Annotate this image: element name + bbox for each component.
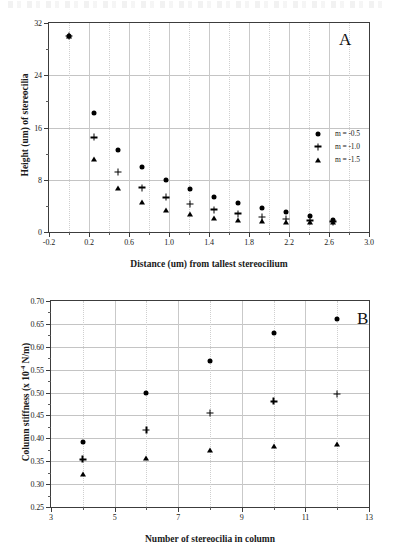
plot-area-b: 0.250.300.350.400.450.500.550.600.650.70… [50, 300, 370, 508]
gridline-vertical [242, 301, 243, 507]
x-axis-tick [369, 507, 370, 512]
data-point-circle [260, 206, 265, 211]
data-point-circle [116, 147, 121, 152]
gridline-vertical-minor [69, 23, 70, 232]
y-axis-tick-label: 0.45 [30, 411, 44, 420]
y-axis-tick [46, 301, 51, 302]
gridline-vertical [169, 23, 170, 232]
y-axis-title-b-suffix: N/m) [21, 343, 31, 366]
y-axis-tick-label: 0.70 [30, 297, 44, 306]
y-axis-tick [46, 393, 51, 394]
data-point-plus [259, 213, 266, 220]
y-axis-tick-label: 16 [34, 123, 42, 132]
y-axis-tick [46, 484, 51, 485]
y-axis-tick-label: 24 [34, 71, 42, 80]
legend-label: m = -1.5 [335, 155, 360, 164]
y-axis-minor-tick [48, 312, 51, 313]
gridline-vertical-minor [337, 301, 338, 507]
gridline-vertical [129, 23, 130, 232]
y-axis-tick [46, 415, 51, 416]
y-axis-tick-label: 32 [34, 19, 42, 28]
y-axis-tick [46, 461, 51, 462]
x-axis-tick [115, 507, 116, 512]
x-axis-minor-tick [309, 232, 310, 235]
x-axis-minor-tick [149, 232, 150, 235]
y-axis-minor-tick [48, 404, 51, 405]
data-point-circle [236, 201, 241, 206]
data-point-triangle [330, 220, 336, 225]
gridline-vertical [115, 301, 116, 507]
y-axis-tick-label: 0.35 [30, 457, 44, 466]
data-point-triangle [259, 218, 265, 223]
y-axis-tick-label: 0.25 [30, 503, 44, 512]
x-axis-tick [51, 507, 52, 512]
x-axis-minor-tick [69, 232, 70, 235]
y-axis-minor-tick [48, 450, 51, 451]
data-point-triangle [91, 156, 97, 161]
x-axis-tick-label: 7 [176, 513, 180, 522]
data-point-plus [307, 217, 314, 224]
data-point-triangle [187, 212, 193, 217]
x-axis-tick-label: 0.6 [124, 238, 134, 247]
legend-label: m = -1.0 [335, 142, 360, 151]
legend-marker-triangle [311, 153, 325, 166]
panel-letter-a: A [339, 30, 351, 50]
gridline-vertical-minor [210, 301, 211, 507]
y-axis-tick [44, 128, 49, 129]
x-axis-tick-label: 1.8 [244, 238, 254, 247]
marker-triangle [315, 157, 321, 162]
y-axis-minor-tick [46, 101, 49, 102]
y-axis-minor-tick [48, 381, 51, 382]
y-axis-minor-tick [46, 206, 49, 207]
data-point-plus [330, 218, 337, 225]
gridline-vertical [249, 23, 250, 232]
y-axis-tick [46, 347, 51, 348]
x-axis-minor-tick [146, 507, 147, 510]
y-axis-minor-tick [48, 473, 51, 474]
legend-item-plus: m = -1.0 [311, 140, 360, 153]
marker-circle [316, 131, 321, 136]
y-axis-minor-tick [48, 335, 51, 336]
y-axis-minor-tick [46, 49, 49, 50]
y-axis-tick-label: 0.60 [30, 342, 44, 351]
y-axis-tick [46, 324, 51, 325]
x-axis-tick-label: 3.0 [364, 238, 374, 247]
x-axis-tick [169, 232, 170, 237]
gridline-vertical-minor [189, 23, 190, 232]
gridline-vertical-minor [146, 301, 147, 507]
y-axis-tick-label: 0 [38, 228, 42, 237]
y-axis-minor-tick [48, 358, 51, 359]
y-axis-minor-tick [46, 154, 49, 155]
x-axis-tick-label: 1.4 [204, 238, 214, 247]
gridline-vertical [178, 301, 179, 507]
data-point-triangle [115, 186, 121, 191]
data-point-triangle [307, 220, 313, 225]
x-axis-tick [49, 232, 50, 237]
x-axis-tick [305, 507, 306, 512]
x-axis-tick-label: 0.2 [84, 238, 94, 247]
x-axis-tick [242, 507, 243, 512]
x-axis-tick [329, 232, 330, 237]
x-axis-tick-label: 13 [365, 513, 373, 522]
data-point-circle [284, 210, 289, 215]
gridline-vertical [209, 23, 210, 232]
gridline-vertical-minor [109, 23, 110, 232]
x-axis-tick-label: -0.2 [43, 238, 55, 247]
x-axis-minor-tick [349, 232, 350, 235]
gridline-vertical-minor [309, 23, 310, 232]
x-axis-minor-tick [337, 507, 338, 510]
x-axis-tick-label: 2.6 [324, 238, 334, 247]
x-axis-tick [129, 232, 130, 237]
x-axis-tick-label: 3 [49, 513, 53, 522]
y-axis-title-b: Column stiffness (x 10-4 N/m) [19, 287, 31, 517]
data-point-plus [115, 168, 122, 175]
data-point-circle [92, 111, 97, 116]
x-axis-minor-tick [269, 232, 270, 235]
data-point-plus [91, 134, 98, 141]
data-point-plus [187, 200, 194, 207]
gridline-vertical-minor [149, 23, 150, 232]
x-axis-minor-tick [210, 507, 211, 510]
gridline-vertical-minor [83, 301, 84, 507]
data-point-circle [212, 194, 217, 199]
legend-marker-plus [311, 140, 325, 153]
